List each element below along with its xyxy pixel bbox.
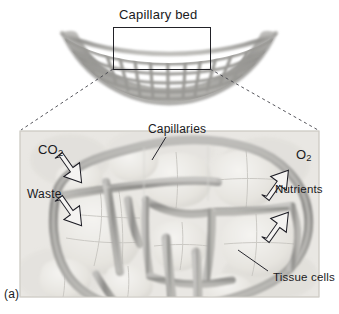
capillary-bed-title: Capillary bed: [119, 8, 197, 21]
label-waste: Waste: [27, 188, 62, 200]
label-tissue-cells: Tissue cells: [273, 272, 335, 284]
label-o2: O2: [296, 148, 312, 164]
label-o2-text: O: [296, 147, 306, 162]
label-o2-subscript: 2: [306, 153, 311, 163]
label-nutrients: Nutrients: [275, 184, 323, 196]
label-co2-subscript: 2: [58, 148, 63, 158]
panel-label-a: (a): [4, 288, 19, 300]
label-capillaries: Capillaries: [148, 123, 206, 135]
label-co2-text: CO: [38, 142, 58, 157]
label-co2: CO2: [38, 143, 63, 159]
